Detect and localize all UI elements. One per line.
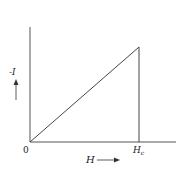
critical-field-label: Hc (132, 145, 145, 156)
y-arrowhead-icon (14, 79, 19, 85)
origin-label: 0 (23, 145, 29, 155)
diagram-canvas: 0 Hc H -I (0, 0, 186, 178)
linear-rise-line (30, 47, 139, 142)
x-arrowhead-icon (114, 158, 120, 163)
x-axis-label: H (85, 154, 95, 165)
y-axis-label: -I (9, 67, 16, 77)
